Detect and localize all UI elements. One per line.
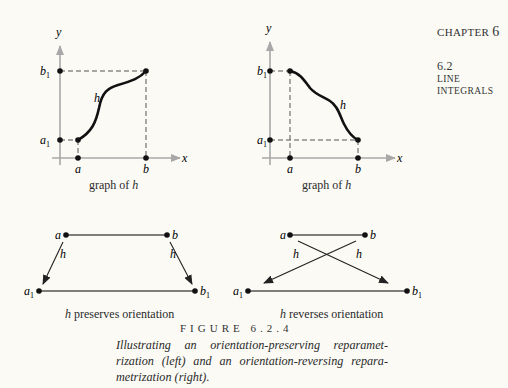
point-b1: b1 [200,284,210,300]
chapter-heading: CHAPTER 6 [437,24,500,40]
caption-line-3: metrization (right). [116,369,388,385]
tick-b1: b1 [257,64,267,80]
arrow-label-h: h [170,247,176,261]
chapter-number: 6 [492,24,499,39]
graph-left-caption: graph of h [89,178,138,193]
graph-left: y x b1 a1 a b h [40,25,188,176]
figure-title: FIGURE 6.2.4 [180,322,292,334]
arrow-label-h: h [356,247,362,261]
tick-b1: b1 [40,64,50,80]
caption-line-1: Illustrating an orientation-preserving r… [116,337,388,353]
mapping-right: a b a1 b1 h h [233,228,422,300]
point-a1: a1 [24,284,34,300]
tick-a: a [75,162,81,176]
section-number: 6.2 [437,59,453,74]
graph-right: y x b1 a1 a b h [257,21,403,176]
mapping-left: a b a1 b1 h h [24,228,210,300]
dashed-guides [60,71,146,158]
reverses-orientation-caption: h reverses orientation [280,307,383,322]
point-a: a [55,228,61,242]
figure-caption: Illustrating an orientation-preserving r… [116,337,388,385]
point-a: a [280,228,286,242]
y-axis-label: y [55,25,62,39]
chapter-label: CHAPTER [437,26,489,38]
point-a1: a1 [233,284,243,300]
curve-label-h: h [340,98,346,112]
y-axis-label: y [265,21,272,35]
tick-b: b [355,162,361,176]
graph-right-caption: graph of h [302,178,351,193]
section-title-line2: INTEGRALS [437,86,493,96]
dashed-guides [270,71,358,158]
point-b: b [370,228,376,242]
tick-a1: a1 [257,133,267,149]
section-title-line1: LINE [437,74,460,84]
tick-a: a [287,162,293,176]
points [267,68,361,161]
arrow-label-h: h [293,247,299,261]
curve-label-h: h [94,91,100,105]
arrow-label-h: h [60,247,66,261]
curve-h [290,71,358,140]
x-axis-label: x [181,151,188,165]
tick-a1: a1 [40,133,50,149]
curve-h [78,71,146,140]
point-b: b [172,228,178,242]
caption-line-2: rization (left) and an orientation-rever… [116,353,388,369]
points [57,68,149,161]
x-axis-label: x [396,151,403,165]
preserves-orientation-caption: h preserves orientation [65,307,174,322]
point-b1: b1 [412,284,422,300]
tick-b: b [143,162,149,176]
